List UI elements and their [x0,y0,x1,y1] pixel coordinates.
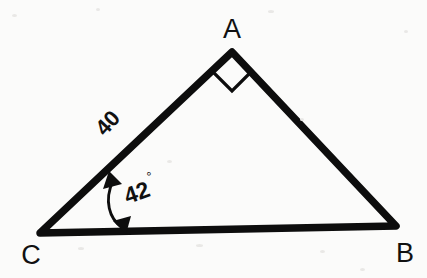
vertex-label-b: B [396,238,414,268]
angle-measure-group-c: 42 ° [119,169,161,209]
triangle-diagram-svg: A B C 40 42 ° [0,0,427,278]
right-angle-marker-a [213,53,251,91]
vertex-label-c: C [21,240,41,270]
geometry-figure: A B C 40 42 ° [0,0,427,278]
vertex-label-a: A [223,14,241,44]
side-length-label-ca: 40 [90,105,125,140]
